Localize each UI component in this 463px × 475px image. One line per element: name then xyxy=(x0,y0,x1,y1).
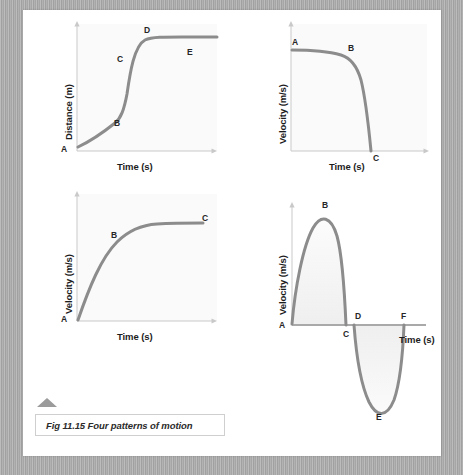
plot-background xyxy=(77,24,217,151)
plot-background xyxy=(77,194,217,321)
point-label-b: B xyxy=(111,230,117,240)
chart-panel-velocity-oscillation: A B C D E F Time (s) Velocity (m/s) xyxy=(251,180,441,420)
chart-panel-velocity-decreasing: A B C Time (s) Velocity (m/s) xyxy=(251,18,436,183)
y-axis-arrow-icon xyxy=(288,21,293,27)
point-label-b: B xyxy=(114,118,120,128)
four-panel-figure: A B C D E Time (s) Distance (m) A B C Ti… xyxy=(23,10,441,456)
point-label-c: C xyxy=(117,54,123,64)
y-axis-arrow-icon xyxy=(74,191,79,197)
y-axis-title: Velocity (m/s) xyxy=(63,254,74,314)
x-axis-title: Time (s) xyxy=(329,161,364,172)
point-label-a: A xyxy=(61,314,67,324)
point-label-a: A xyxy=(292,37,298,47)
point-label-e: E xyxy=(376,412,382,422)
y-axis-title: Velocity (m/s) xyxy=(277,255,288,315)
y-axis-arrow-icon xyxy=(289,202,294,208)
point-label-b: B xyxy=(322,200,328,210)
chart-panel-velocity-rise: A B C Time (s) Velocity (m/s) xyxy=(41,188,221,353)
point-label-d: D xyxy=(144,25,150,35)
x-axis-title: Time (s) xyxy=(117,161,152,172)
point-label-c: C xyxy=(202,213,208,223)
chart-panel-distance-time: A B C D E Time (s) Distance (m) xyxy=(41,18,221,183)
y-axis-arrow-icon xyxy=(74,21,79,27)
point-label-f: F xyxy=(401,311,406,321)
figure-caption-box: Fig 11.15 Four patterns of motion xyxy=(35,414,225,436)
point-label-a: A xyxy=(279,320,285,330)
point-label-c: C xyxy=(373,153,379,163)
y-axis-title: Distance (m) xyxy=(63,84,74,140)
figure-page: A B C D E Time (s) Distance (m) A B C Ti… xyxy=(23,10,441,456)
negative-area-fill xyxy=(354,326,404,413)
plot-background xyxy=(291,24,427,151)
point-label-c: C xyxy=(343,329,349,339)
x-axis-title: Time (s) xyxy=(117,331,152,342)
triangle-marker-icon xyxy=(37,398,57,407)
figure-caption-text: Fig 11.15 Four patterns of motion xyxy=(46,420,192,431)
x-axis-title: Time (s) xyxy=(399,334,434,345)
point-label-d: D xyxy=(355,311,361,321)
point-label-a: A xyxy=(61,144,67,154)
point-label-b: B xyxy=(348,43,354,53)
y-axis-title: Velocity (m/s) xyxy=(277,84,288,144)
point-label-e: E xyxy=(187,47,193,57)
